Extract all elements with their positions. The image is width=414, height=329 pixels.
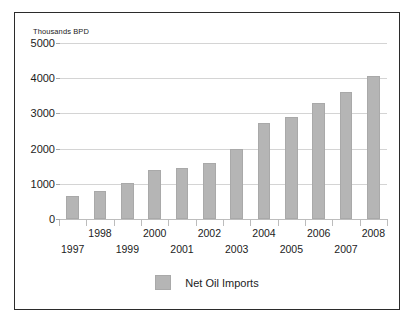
x-axis-tick-mark-7: [250, 219, 251, 226]
x-axis-label-2008: 2008: [362, 227, 385, 239]
y-axis-tick-label-group: 010002000300040005000: [15, 43, 55, 219]
x-axis-tick-mark-1: [86, 219, 87, 226]
gridline-1000: [59, 184, 387, 185]
x-axis-label-2001: 2001: [170, 243, 193, 255]
x-axis-label-2006: 2006: [307, 227, 330, 239]
x-axis-label-2000: 2000: [143, 227, 166, 239]
chart-plot-wrapper: Thousands BPD 010002000300040005000 1998…: [15, 13, 399, 309]
gridline-3000: [59, 113, 387, 114]
bar-1998: [94, 191, 107, 219]
gridline-5000: [59, 43, 387, 44]
y-axis-tick-mark-4000: [56, 78, 60, 79]
x-axis-tick-mark-10: [332, 219, 333, 226]
bar-2008: [367, 76, 380, 219]
y-axis-tick-label-1000: 1000: [15, 178, 55, 190]
x-axis-tick-group: [59, 219, 387, 227]
y-axis-tick-mark-0: [56, 219, 60, 220]
x-axis-label-1999: 1999: [116, 243, 139, 255]
chart-legend: Net Oil Imports: [15, 275, 399, 290]
x-axis-tick-mark-5: [196, 219, 197, 226]
y-axis-unit-caption: Thousands BPD: [33, 27, 89, 36]
y-axis-tick-label-3000: 3000: [15, 107, 55, 119]
x-axis-label-2007: 2007: [334, 243, 357, 255]
x-axis-tick-mark-2: [114, 219, 115, 226]
x-axis-label-row-upper: 199820002002200420062008: [59, 227, 387, 242]
bar-2002: [203, 163, 216, 219]
y-axis-tick-label-5000: 5000: [15, 37, 55, 49]
bar-2006: [312, 103, 325, 220]
x-axis-tick-mark-4: [168, 219, 169, 226]
bar-2000: [148, 170, 161, 219]
bar-2001: [176, 168, 189, 219]
x-axis-tick-mark-11: [360, 219, 361, 226]
y-axis-tick-label-2000: 2000: [15, 143, 55, 155]
x-axis-label-2005: 2005: [280, 243, 303, 255]
x-axis-label-2003: 2003: [225, 243, 248, 255]
x-axis-label-1998: 1998: [88, 227, 111, 239]
chart-plot-area: [59, 43, 387, 219]
x-axis-label-2004: 2004: [252, 227, 275, 239]
gridline-4000: [59, 78, 387, 79]
x-axis-tick-mark-8: [278, 219, 279, 226]
x-axis-tick-mark-3: [141, 219, 142, 226]
bar-1999: [121, 183, 134, 219]
bar-1997: [66, 196, 79, 219]
x-axis-label-row-lower: 199719992001200320052007: [59, 243, 387, 258]
bar-2003: [230, 149, 243, 219]
legend-label-net-oil-imports: Net Oil Imports: [185, 277, 258, 289]
x-axis-label-1997: 1997: [61, 243, 84, 255]
bar-2004: [258, 123, 271, 219]
x-axis-tick-mark-9: [305, 219, 306, 226]
bar-2005: [285, 117, 298, 219]
legend-swatch-net-oil-imports: [155, 275, 171, 290]
y-axis-tick-mark-5000: [56, 43, 60, 44]
y-axis-tick-label-4000: 4000: [15, 72, 55, 84]
x-axis-tick-mark-12: [387, 219, 388, 226]
y-axis-tick-mark-3000: [56, 113, 60, 114]
bar-2007: [340, 92, 353, 219]
y-axis-tick-mark-1000: [56, 184, 60, 185]
chart-figure-frame: Thousands BPD 010002000300040005000 1998…: [14, 12, 400, 310]
x-axis-tick-mark-0: [59, 219, 60, 226]
x-axis-label-2002: 2002: [198, 227, 221, 239]
y-axis-tick-label-0: 0: [15, 213, 55, 225]
gridline-2000: [59, 149, 387, 150]
x-axis-tick-mark-6: [223, 219, 224, 226]
y-axis-tick-mark-2000: [56, 149, 60, 150]
